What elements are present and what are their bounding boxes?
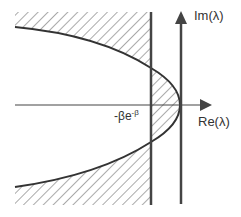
boundary-label-exponent: -β xyxy=(132,108,139,117)
boundary-label-base: -βe xyxy=(114,109,132,123)
boundary-label: -βe-β xyxy=(114,108,139,123)
hatched-region-top xyxy=(15,12,151,68)
imag-axis-label: Im(λ) xyxy=(194,8,224,23)
real-axis-arrow-icon xyxy=(200,99,212,111)
imag-axis-arrow-icon xyxy=(175,11,187,24)
real-axis-label: Re(λ) xyxy=(198,114,230,129)
hatched-region-bottom xyxy=(15,142,151,205)
